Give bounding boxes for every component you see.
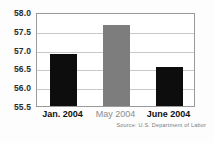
bar — [156, 67, 183, 106]
bar — [50, 54, 77, 106]
y-tick-label: 55.5 — [14, 102, 31, 112]
y-tick-label: 56.5 — [14, 64, 31, 74]
source-note: Source: U.S. Department of Labor — [116, 122, 206, 128]
y-tick-label: 57.0 — [14, 46, 31, 56]
bar — [103, 25, 130, 106]
x-axis-label: May 2004 — [96, 109, 136, 119]
plot-area — [36, 13, 195, 107]
y-axis: 58.057.557.056.556.055.5 — [0, 13, 33, 107]
y-tick-label: 56.0 — [14, 83, 31, 93]
y-tick-label: 58.0 — [14, 8, 31, 18]
x-axis-label: Jan. 2004 — [42, 109, 83, 119]
bar-chart: 58.057.557.056.556.055.5 Jan. 2004May 20… — [0, 0, 214, 143]
bars-group — [37, 14, 194, 106]
x-axis-label: June 2004 — [147, 109, 191, 119]
y-tick-label: 57.5 — [14, 27, 31, 37]
x-axis-labels: Jan. 2004May 2004June 2004 — [36, 109, 195, 123]
